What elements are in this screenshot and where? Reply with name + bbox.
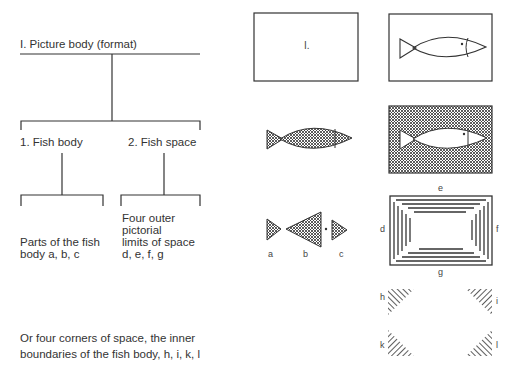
leaf-fish-body-line-2: body a, b, c bbox=[20, 248, 79, 260]
corner-l-label: l bbox=[496, 340, 498, 350]
leaf-fish-space-line-1: Four outer bbox=[122, 212, 175, 224]
leaf-fish-space-line-3: limits of space bbox=[122, 236, 195, 248]
format-label: I. bbox=[304, 40, 310, 51]
branch-fish-space-label: 2. Fish space bbox=[128, 136, 196, 148]
hatched-fish-space bbox=[389, 106, 492, 173]
part-a-label: a bbox=[268, 249, 273, 259]
footer-line-2: boundaries of the fish body, h, i, k, l bbox=[20, 348, 200, 360]
footer-line-1: Or four corners of space, the inner bbox=[20, 332, 195, 344]
frame-d-label: d bbox=[380, 224, 385, 234]
frame-e-label: e bbox=[438, 183, 443, 193]
corner-h-label: h bbox=[380, 292, 385, 302]
hatched-fish-body bbox=[267, 128, 352, 149]
corner-triangles bbox=[388, 289, 492, 356]
fish-in-format bbox=[389, 14, 492, 81]
leaf-fish-body-line-1: Parts of the fish bbox=[20, 236, 100, 248]
leaf-fish-space-line-4: d, e, f, g bbox=[122, 248, 164, 260]
frame-g-label: g bbox=[438, 267, 443, 277]
corner-i-label: i bbox=[496, 296, 498, 306]
root-label: I. Picture body (format) bbox=[20, 38, 137, 50]
part-b-label: b bbox=[303, 249, 308, 259]
hierarchy-tree bbox=[20, 54, 200, 206]
fish-parts bbox=[267, 212, 347, 247]
part-c-label: c bbox=[339, 249, 344, 259]
frame-f-label: f bbox=[496, 224, 499, 234]
outer-limits-frame bbox=[390, 196, 492, 265]
corner-k-label: k bbox=[380, 340, 385, 350]
leaf-fish-space-line-2: pictorial bbox=[122, 224, 162, 236]
branch-fish-body-label: 1. Fish body bbox=[20, 136, 83, 148]
